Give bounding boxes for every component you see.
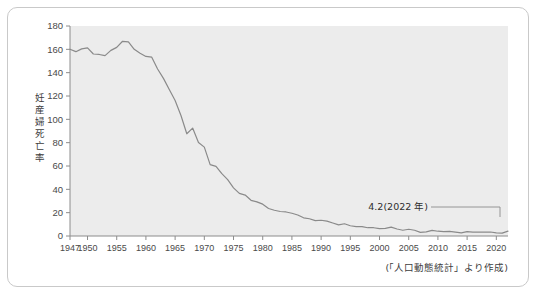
y-tick-label: 180 xyxy=(47,20,63,31)
y-tick-label: 100 xyxy=(47,114,63,125)
y-tick-label: 120 xyxy=(47,90,63,101)
y-axis-title-char: 妊 xyxy=(35,92,45,103)
y-tick-label: 0 xyxy=(58,230,63,241)
y-axis-ticks: 020406080100120140160180 xyxy=(47,20,70,241)
y-axis-title: 妊産婦死亡率 xyxy=(35,92,45,163)
chart-card: 020406080100120140160180 194719501955196… xyxy=(7,7,529,287)
y-axis-title-char: 率 xyxy=(35,152,45,163)
x-tick-label: 1975 xyxy=(224,243,244,253)
y-tick-label: 60 xyxy=(52,160,63,171)
plot-background xyxy=(70,26,508,236)
y-axis-title-char: 産 xyxy=(35,104,45,115)
x-axis-ticks: 1947195019551960196519701975198019851990… xyxy=(60,236,506,253)
chart-svg: 020406080100120140160180 194719501955196… xyxy=(8,8,529,287)
x-tick-label: 1955 xyxy=(107,243,127,253)
x-tick-label: 2000 xyxy=(370,243,390,253)
x-tick-label: 2020 xyxy=(486,243,506,253)
x-tick-label: 1970 xyxy=(194,243,214,253)
y-axis-title-char: 婦 xyxy=(35,116,45,127)
y-tick-label: 160 xyxy=(47,44,63,55)
y-tick-label: 20 xyxy=(52,207,63,218)
x-tick-label: 2015 xyxy=(457,243,477,253)
x-tick-label: 1980 xyxy=(253,243,273,253)
y-tick-label: 40 xyxy=(52,184,63,195)
x-tick-label: 1965 xyxy=(165,243,185,253)
x-tick-label: 1950 xyxy=(78,243,98,253)
x-tick-label: 2005 xyxy=(399,243,419,253)
source-note: (「人口動態統計」より作成) xyxy=(386,262,508,273)
y-axis-title-char: 死 xyxy=(35,128,45,139)
maternal-mortality-line-chart: 020406080100120140160180 194719501955196… xyxy=(8,8,529,287)
x-tick-label: 1985 xyxy=(282,243,302,253)
y-tick-label: 80 xyxy=(52,137,63,148)
x-tick-label: 2010 xyxy=(428,243,448,253)
y-axis-title-char: 亡 xyxy=(35,140,45,151)
x-tick-label: 1995 xyxy=(340,243,360,253)
annotation-label: 4.2(2022 年) xyxy=(368,201,428,212)
x-tick-label: 1990 xyxy=(311,243,331,253)
y-tick-label: 140 xyxy=(47,67,63,78)
x-tick-label: 1960 xyxy=(136,243,156,253)
